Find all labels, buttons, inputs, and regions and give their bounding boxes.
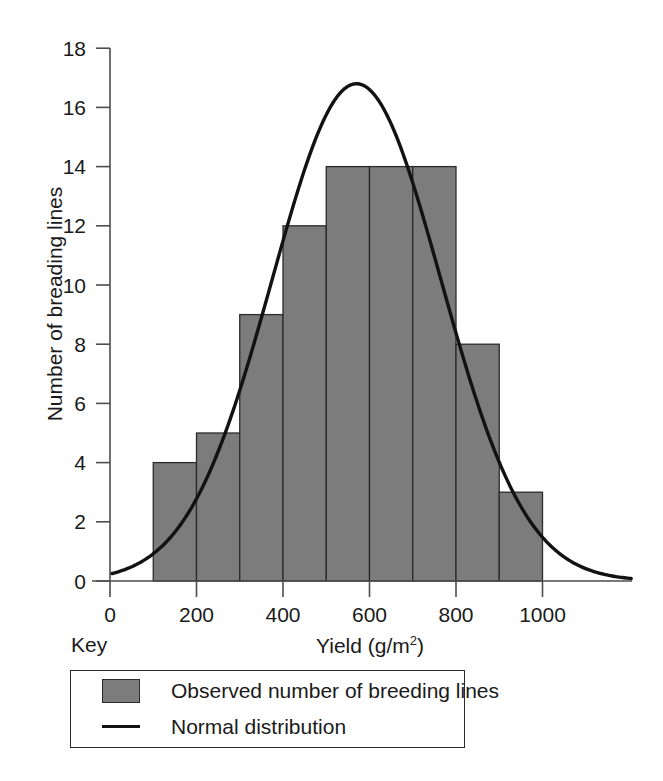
histogram-bar: [413, 167, 456, 581]
histogram-bar: [240, 315, 283, 581]
x-axis-tick-label: 800: [438, 603, 473, 626]
x-axis-title: Yield (g/m2): [170, 633, 570, 658]
x-axis-title-base: Yield (g/m: [316, 634, 410, 657]
y-axis-tick-label: 6: [74, 392, 86, 415]
y-axis-tick-label: 4: [74, 451, 86, 474]
y-axis-tick-label: 2: [74, 510, 86, 533]
x-axis-tick-label: 1000: [519, 603, 566, 626]
y-axis-tick-label: 18: [63, 37, 86, 60]
legend-label-observed: Observed number of breeding lines: [171, 679, 499, 703]
legend-item-observed: Observed number of breeding lines: [71, 671, 464, 710]
bar-swatch-icon: [102, 679, 140, 703]
legend-box: Observed number of breeding lines Normal…: [70, 670, 465, 748]
y-axis-tick-label: 16: [63, 96, 86, 119]
histogram-bar: [456, 344, 499, 581]
x-axis-tick-label: 0: [104, 603, 116, 626]
x-axis-ticks: 02004006008001000: [104, 581, 566, 626]
x-axis-tick-label: 200: [179, 603, 214, 626]
legend-line-cell: [71, 725, 171, 728]
chart-plot-area: 024681012141618 02004006008001000: [0, 0, 663, 640]
histogram-bar: [370, 167, 413, 581]
histogram-bar: [283, 226, 326, 581]
histogram-bars: [153, 167, 542, 581]
y-axis-title: Number of breading lines: [43, 154, 67, 454]
histogram-bar: [326, 167, 369, 581]
x-axis-title-tail: ): [417, 634, 424, 657]
x-axis-title-exponent: 2: [410, 633, 417, 648]
legend-item-normal: Normal distribution: [71, 707, 464, 746]
x-axis-tick-label: 400: [265, 603, 300, 626]
line-swatch-icon: [102, 725, 140, 728]
histogram-bar: [153, 463, 196, 581]
histogram-figure: 024681012141618 02004006008001000 Number…: [0, 0, 663, 781]
legend-label-normal: Normal distribution: [171, 715, 346, 739]
y-axis-tick-label: 8: [74, 333, 86, 356]
key-label: Key: [71, 633, 107, 657]
y-axis-ticks: 024681012141618: [63, 37, 110, 593]
y-axis-tick-label: 0: [74, 570, 86, 593]
x-axis-tick-label: 600: [352, 603, 387, 626]
legend-swatch-cell: [71, 679, 171, 703]
